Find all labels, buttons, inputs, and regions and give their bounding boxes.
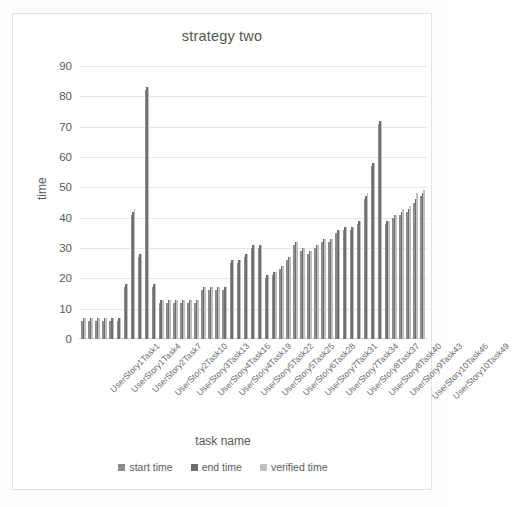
bar-group (320, 66, 327, 339)
bar-group (144, 66, 151, 339)
bar (402, 209, 404, 339)
y-tick-label: 30 (59, 242, 72, 254)
legend-label: start time (129, 461, 172, 473)
plot-wrapper: time 0102030405060708090 UserStory1Task1… (13, 14, 433, 491)
bar (416, 193, 418, 339)
bar-group (299, 66, 306, 339)
bar (218, 287, 220, 339)
bar-group (348, 66, 355, 339)
bar (423, 190, 425, 339)
legend-item[interactable]: start time (118, 461, 172, 473)
bar (91, 318, 93, 339)
bar (162, 300, 164, 339)
bar (275, 272, 277, 339)
bar-group (165, 66, 172, 339)
bar (176, 300, 178, 339)
y-tick-label: 10 (59, 303, 72, 315)
bar (190, 300, 192, 339)
bar-group (341, 66, 348, 339)
bar (296, 242, 298, 339)
chart-frame: strategy two time 0102030405060708090 Us… (12, 13, 432, 490)
bar-group (242, 66, 249, 339)
bar-group (384, 66, 391, 339)
bar-group (285, 66, 292, 339)
bar (155, 284, 157, 339)
bar (360, 221, 362, 339)
bar-group (221, 66, 228, 339)
bar-group (271, 66, 278, 339)
bar-group (235, 66, 242, 339)
legend-item[interactable]: verified time (260, 461, 328, 473)
bar-group (264, 66, 271, 339)
bar-group (327, 66, 334, 339)
bar (367, 193, 369, 339)
legend-item[interactable]: end time (191, 461, 242, 473)
bar (395, 215, 397, 339)
legend-swatch-icon (118, 464, 125, 471)
bar-group (200, 66, 207, 339)
bar-group (313, 66, 320, 339)
bar-group (214, 66, 221, 339)
chart-legend: start timeend timeverified time (13, 461, 433, 473)
y-tick-label: 20 (59, 272, 72, 284)
bar-group (179, 66, 186, 339)
bar-group (355, 66, 362, 339)
y-tick-label: 50 (59, 181, 72, 193)
bar (374, 163, 376, 339)
bar (409, 206, 411, 339)
x-axis-title: task name (13, 434, 433, 448)
bar-group (122, 66, 129, 339)
bar (240, 260, 242, 339)
y-tick-label: 60 (59, 151, 72, 163)
bar (148, 87, 150, 339)
bar (247, 254, 249, 339)
bar (226, 287, 228, 339)
bar-group (207, 66, 214, 339)
bar (105, 318, 107, 339)
bar-group (257, 66, 264, 339)
bar-group (172, 66, 179, 339)
bar (169, 300, 171, 339)
bar-group (377, 66, 384, 339)
bar-group (278, 66, 285, 339)
y-tick-label: 80 (59, 90, 72, 102)
bar-group (87, 66, 94, 339)
bar (254, 245, 256, 339)
bar (331, 239, 333, 339)
bar (282, 266, 284, 339)
bar (303, 248, 305, 339)
legend-label: verified time (271, 461, 328, 473)
bar (289, 257, 291, 339)
bar (233, 260, 235, 339)
bar-group (419, 66, 426, 339)
bar (120, 318, 122, 339)
legend-label: end time (202, 461, 242, 473)
bar (388, 221, 390, 339)
bar-group (334, 66, 341, 339)
bar-group (137, 66, 144, 339)
bar-group (292, 66, 299, 339)
y-axis-title: time (35, 177, 49, 200)
bar-series-container (79, 66, 427, 339)
bar (353, 227, 355, 339)
x-axis-tick-labels: UserStory1Task1UserStory1Task4UserStory2… (79, 341, 427, 431)
bar-group (129, 66, 136, 339)
y-tick-label: 0 (66, 333, 72, 345)
bar-group (398, 66, 405, 339)
bar-group (391, 66, 398, 339)
bar (268, 275, 270, 339)
bar-group (151, 66, 158, 339)
bar (310, 251, 312, 339)
bar-group (306, 66, 313, 339)
bar-group (108, 66, 115, 339)
bar-group (250, 66, 257, 339)
bar (381, 121, 383, 339)
bar-group (158, 66, 165, 339)
bar-group (193, 66, 200, 339)
legend-swatch-icon (191, 464, 198, 471)
bar (84, 318, 86, 339)
y-tick-label: 70 (59, 121, 72, 133)
y-tick-label: 90 (59, 60, 72, 72)
bar (98, 318, 100, 339)
